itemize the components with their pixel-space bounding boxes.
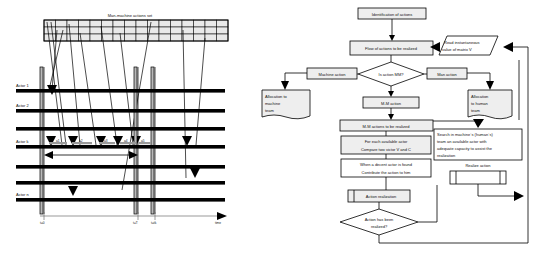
node-realize-action-label: Realize action (465, 163, 490, 168)
actor-label-n: Actor n (16, 192, 29, 197)
node-search-line2: team an available actor with (437, 139, 487, 144)
time-axis-label: time (215, 221, 221, 225)
node-search-line3: adequate capacity to assist the (437, 146, 493, 151)
node-mm-action-label: M-M action (381, 101, 401, 106)
node-search-line1: Search in machine´s (human´s) (437, 132, 493, 137)
action-label-a3: a3 (104, 139, 108, 143)
node-alloc-human-l3: team (471, 108, 481, 113)
duration-span-arrow (44, 151, 138, 159)
node-compare-line2: Compare two victor V and C (361, 147, 411, 152)
action-mapping-lines (47, 22, 205, 190)
figure-canvas: Man-machine actions set (0, 0, 535, 254)
node-read-matrix-line2: value of matrix V (442, 47, 472, 52)
node-read-matrix-line1: Read instantaneous (444, 40, 480, 45)
node-contribute-line1: When a decent actor is found (360, 162, 412, 167)
node-contribute-line2: Contribute the action to him (362, 170, 412, 175)
node-flow-label: Flow of actions to be realized (365, 46, 417, 51)
action-label-a2: a2 (79, 139, 83, 143)
node-alloc-human-l1: Allocation (471, 94, 488, 99)
grid-title: Man-machine actions set (108, 13, 153, 18)
node-alloc-human-l2: to human (471, 101, 488, 106)
node-decision-done-line1: Action has been (365, 217, 394, 222)
node-decision-done-line2: realized? (371, 224, 388, 229)
node-man-action-label: Man action (437, 72, 457, 77)
flowchart-panel: Identification of actions Flow of action… (262, 8, 528, 243)
time-tick-0: t=0 (40, 221, 45, 225)
action-label-a4: a4 (124, 139, 128, 143)
figure-root: Man-machine actions set (0, 0, 535, 254)
actor-row-k (16, 145, 225, 149)
node-decision-mm-label: Is action MM? (379, 72, 405, 77)
node-machine-action-label: Machine action (319, 72, 346, 77)
node-action-realization-label: Action realization (366, 194, 396, 199)
node-alloc-machine-l1: Allocation to (265, 94, 288, 99)
actor-row-3 (16, 127, 225, 131)
actor-label-2: Actor 2 (16, 103, 29, 108)
actor-row-6 (16, 181, 225, 185)
node-search-line4: realization (437, 153, 455, 158)
time-tick-T: t=T (133, 221, 138, 225)
actor-row-5 (16, 165, 225, 169)
actor-row-1 (16, 89, 225, 93)
action-label-a1: a1 (56, 139, 60, 143)
time-axis: t=0 t=T t=tk time (40, 212, 227, 225)
action-label-a5: a5 (141, 139, 145, 143)
left-timeline-panel: Man-machine actions set (16, 13, 228, 225)
node-identification-label: Identification of actions (372, 12, 413, 17)
actor-rows (16, 89, 225, 202)
node-realize-action-process (450, 171, 506, 184)
node-alloc-machine-l3: team (265, 108, 275, 113)
node-alloc-machine-l2: machine (265, 101, 281, 106)
man-machine-actions-grid (44, 20, 228, 41)
actor-row-n (16, 198, 225, 202)
actor-label-k: Actor k (16, 139, 28, 144)
actor-row-2 (16, 109, 225, 113)
node-read-matrix-shape (439, 36, 498, 55)
time-tick-tk: t=tk (151, 221, 157, 225)
node-mm-to-realize-label: M-M actions to be realized (363, 124, 410, 129)
node-compare-line1: For each available actor (365, 139, 408, 144)
allocation-arrowheads (46, 85, 200, 196)
actor-label-1: Actor 1 (16, 83, 29, 88)
node-decision-done-shape (340, 209, 418, 235)
